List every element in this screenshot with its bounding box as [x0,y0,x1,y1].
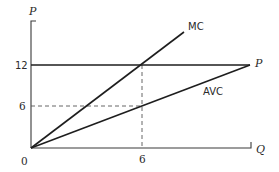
origin-label: 0 [21,155,28,167]
mc-line [31,32,184,148]
avc-label: AVC [203,86,223,97]
x-axis [31,142,251,148]
x-axis-label: Q [256,143,265,156]
y-tick-6: 6 [19,100,26,112]
mc-label: MC [188,21,204,32]
price-label: P [254,57,263,70]
avc-line [31,65,250,148]
cost-curves-chart: P Q 0 12 6 6 MC P AVC [0,0,279,172]
axes [31,21,251,148]
y-axis-label: P [28,5,37,18]
y-axis [31,21,36,148]
y-tick-12: 12 [15,60,28,71]
x-tick-6: 6 [139,153,146,165]
